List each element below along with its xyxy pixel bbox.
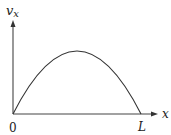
x-axis-label: x — [162, 107, 169, 121]
y-axis-label: vx — [6, 3, 19, 19]
velocity-profile-diagram: vx x 0 L — [0, 0, 171, 135]
parabolic-curve — [13, 51, 141, 114]
y-axis-arrow-icon — [11, 20, 16, 27]
end-label: L — [137, 120, 146, 134]
origin-label: 0 — [9, 121, 17, 135]
x-axis-arrow-icon — [151, 112, 158, 117]
